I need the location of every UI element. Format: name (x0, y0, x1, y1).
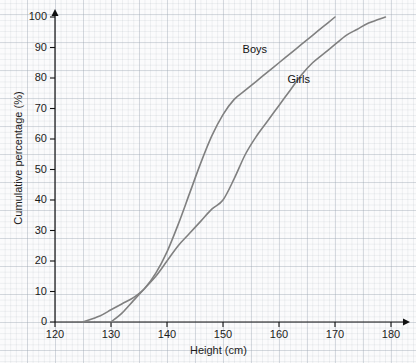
cumulative-frequency-chart: 120130140150160170180 010203040506070809… (0, 0, 416, 363)
x-tick-label: 170 (320, 328, 350, 340)
y-tick-label: 90 (21, 41, 47, 53)
x-tick-label: 180 (376, 328, 406, 340)
series-label-girls: Girls (287, 73, 310, 85)
x-tick-marks (55, 322, 391, 327)
y-tick-label: 100 (21, 10, 47, 22)
x-axis-title: Height (cm) (190, 344, 247, 356)
y-tick-label: 60 (21, 132, 47, 144)
y-tick-label: 30 (21, 224, 47, 236)
y-tick-marks (50, 17, 55, 322)
y-tick-label: 40 (21, 193, 47, 205)
y-axis-title: Cumulative percentage (%) (12, 78, 24, 238)
series-line-boys (83, 17, 335, 322)
y-tick-label: 0 (21, 315, 47, 327)
axes-group (55, 15, 404, 322)
y-tick-label: 50 (21, 163, 47, 175)
y-tick-label: 70 (21, 102, 47, 114)
y-tick-label: 20 (21, 254, 47, 266)
x-tick-label: 120 (40, 328, 70, 340)
series-label-boys: Boys (243, 43, 267, 55)
x-tick-label: 130 (96, 328, 126, 340)
plot-canvas (0, 0, 416, 363)
x-tick-label: 140 (152, 328, 182, 340)
y-tick-label: 80 (21, 71, 47, 83)
x-tick-label: 160 (264, 328, 294, 340)
x-tick-label: 150 (208, 328, 238, 340)
y-tick-label: 10 (21, 285, 47, 297)
series-line-girls (111, 17, 385, 322)
